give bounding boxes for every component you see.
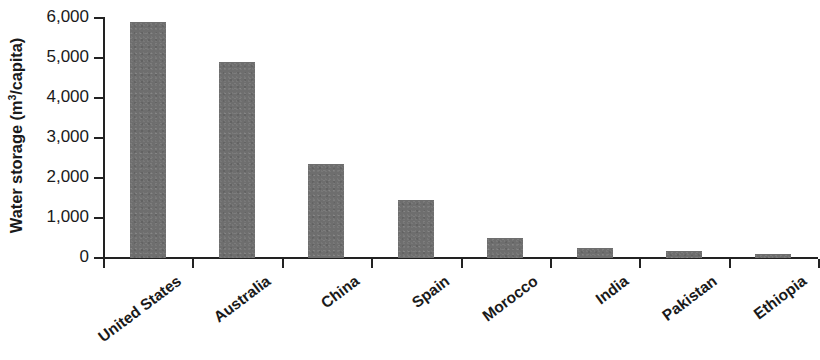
y-axis-tick-label: 4,000 (46, 87, 89, 107)
y-axis-tick-mark (94, 217, 103, 219)
bar-australia (219, 62, 255, 258)
y-axis-tick-label: 6,000 (46, 7, 89, 27)
y-axis-title-prefix: Water storage (m (8, 100, 26, 233)
y-axis-title: Water storage (m3/capita) (8, 37, 27, 232)
y-axis-title-container: Water storage (m3/capita) (0, 0, 34, 270)
y-axis-tick-label: 3,000 (46, 127, 89, 147)
x-axis-label-united-states: United States (95, 272, 185, 346)
x-axis-tick-mark (639, 259, 641, 268)
bar-ethiopia (755, 254, 791, 258)
x-axis-label-morocco: Morocco (479, 272, 541, 325)
y-axis-title-superscript: 3 (6, 94, 18, 100)
y-axis-tick-label: 2,000 (46, 167, 89, 187)
bar-spain (398, 200, 434, 258)
plot-area (103, 18, 818, 258)
y-axis-tick-mark (94, 137, 103, 139)
bar-china (308, 164, 344, 258)
y-axis-tick-label: 0 (80, 247, 89, 267)
bar-chart-figure: Water storage (m3/capita) 6,0005,0004,00… (0, 0, 820, 360)
x-axis-tick-mark (461, 259, 463, 268)
x-axis-label-pakistan: Pakistan (659, 272, 721, 325)
y-axis-tick-mark (94, 177, 103, 179)
y-axis-tick-mark (94, 257, 103, 259)
bar-united-states (130, 22, 166, 258)
y-axis-tick-mark (94, 57, 103, 59)
x-axis-tick-mark (371, 259, 373, 268)
x-axis-tick-mark (282, 259, 284, 268)
bar-morocco (487, 238, 523, 258)
bar-pakistan (666, 251, 702, 258)
x-axis-label-india: India (592, 272, 632, 308)
y-axis-tick-mark (94, 17, 103, 19)
x-axis-label-ethiopia: Ethiopia (750, 272, 810, 323)
x-axis-tick-mark (729, 259, 731, 268)
x-axis-label-australia: Australia (210, 272, 274, 326)
x-axis-tick-mark (192, 259, 194, 268)
y-axis-tick-mark (94, 97, 103, 99)
x-axis-label-spain: Spain (408, 272, 453, 312)
x-axis-tick-mark (103, 259, 105, 268)
y-axis-tick-label: 1,000 (46, 207, 89, 227)
y-axis-title-suffix: /capita) (8, 37, 26, 94)
x-axis-label-china: China (318, 272, 363, 312)
bar-india (577, 248, 613, 258)
x-axis-tick-mark (550, 259, 552, 268)
y-axis-tick-label: 5,000 (46, 47, 89, 67)
